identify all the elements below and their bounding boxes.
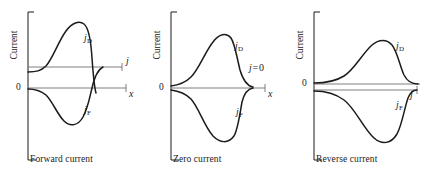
y-axis-label-zero: Current	[152, 15, 162, 75]
zero-tick-label-forward: 0	[16, 82, 21, 92]
panel-forward-plot	[0, 0, 143, 176]
net-current-label-reverse: j	[410, 89, 413, 100]
curve-label-jf-reverse: jF	[396, 99, 403, 110]
zero-tick-label-zero: 0	[159, 82, 164, 92]
x-axis-label-zero: x	[268, 88, 272, 99]
caption-reverse: Reverse current	[316, 154, 377, 164]
y-axis-label-reverse: Current	[295, 15, 305, 75]
curve-label-jf-forward: jF	[84, 104, 91, 115]
x-axis-label-forward: x	[129, 88, 133, 99]
y-axis-line	[314, 12, 322, 160]
curve-label-jd-forward: jD	[84, 32, 92, 43]
curve-label-jf-zero: jF	[236, 106, 243, 117]
panel-zero-plot	[143, 0, 286, 176]
panel-forward: Current 0 jD jF j x Forward current	[0, 0, 143, 176]
caption-zero: Zero current	[173, 154, 221, 164]
panel-zero: Current 0 jD jF j = 0 x Zero current	[143, 0, 286, 176]
caption-forward: Forward current	[30, 154, 93, 164]
curve-label-jd-zero: jD	[235, 40, 243, 51]
curve-jf	[28, 67, 103, 125]
zero-tick-label-reverse: 0	[302, 78, 307, 88]
net-current-label-zero: j = 0	[249, 62, 264, 73]
y-axis-line	[28, 12, 36, 160]
net-current-label-forward: j	[126, 55, 129, 66]
panel-reverse-plot	[286, 0, 431, 176]
curve-label-jd-reverse: jD	[396, 40, 404, 51]
figure-root: Current 0 jD jF j x Forward current Curr…	[0, 0, 431, 176]
y-axis-label-forward: Current	[9, 15, 19, 75]
curve-jf	[314, 90, 417, 143]
panel-reverse: Current 0 jD jF j Reverse current	[286, 0, 429, 176]
